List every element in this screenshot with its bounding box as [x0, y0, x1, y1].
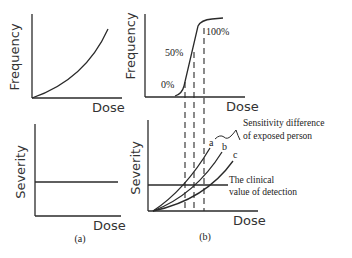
panel-b-frequency-xlabel: Dose	[226, 99, 259, 114]
severity-curve-b	[153, 152, 222, 211]
sensitivity-annotation-line2: of exposed person	[243, 131, 312, 141]
panel-b-severity-chart	[148, 120, 258, 211]
dose-response-diagram: Frequency Dose Severity Dose (a) 100% 50…	[0, 0, 352, 258]
panel-a-caption: (a)	[74, 233, 85, 245]
label-0-percent: 0%	[161, 79, 174, 90]
clinical-annotation-line2: value of detection	[229, 187, 297, 197]
panel-b-frequency-ylabel: Frequency	[123, 12, 138, 79]
sensitivity-annotation-line1: Sensitivity difference	[243, 118, 324, 128]
panel-b-severity-ylabel: Severity	[128, 141, 143, 195]
dashed-guides	[185, 28, 204, 211]
panel-a-frequency-ylabel: Frequency	[7, 23, 22, 90]
panel-b-frequency-chart	[145, 14, 245, 97]
panel-a-frequency-chart	[32, 14, 122, 98]
panel-b-caption: (b)	[199, 231, 211, 243]
panel-a-frequency-xlabel: Dose	[92, 100, 125, 115]
panel-b-severity-xlabel: Dose	[233, 213, 266, 228]
curve-label-a: a	[209, 137, 214, 148]
curve-label-c: c	[233, 149, 238, 160]
curve-label-b: b	[222, 141, 227, 152]
clinical-annotation-line1: The clinical	[229, 175, 274, 185]
sensitivity-brace	[215, 130, 240, 140]
panel-a-severity-xlabel: Dose	[93, 218, 126, 233]
panel-a-severity-ylabel: Severity	[13, 145, 28, 199]
label-100-percent: 100%	[206, 26, 229, 37]
frequency-curve	[32, 29, 108, 98]
label-50-percent: 50%	[165, 47, 183, 58]
panel-a-severity-chart	[35, 124, 121, 216]
